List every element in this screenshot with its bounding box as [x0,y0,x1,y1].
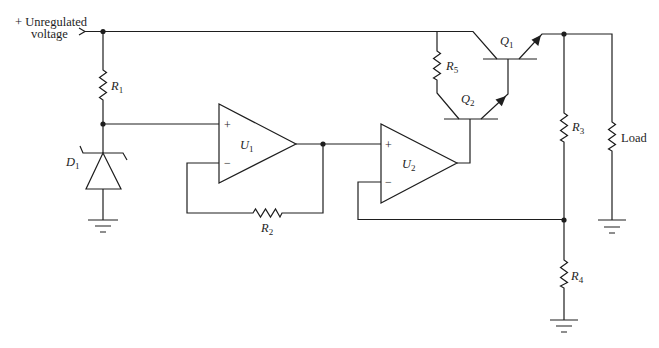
u2-minus-pin: − [385,175,392,189]
r2-label: R2 [260,221,273,237]
u1-triangle-icon [219,104,296,183]
r5-zigzag [434,32,460,120]
input-label-line2: voltage [31,27,68,41]
ground-icon [598,220,626,233]
r3-zigzag [561,34,568,220]
u1-plus-pin: + [224,118,231,132]
q2-label: Q2 [461,92,475,108]
r4-label: R4 [570,269,584,285]
d1-label: D1 [65,155,80,171]
q1-label: Q1 [500,34,514,50]
resistor-r1: R1 [100,32,124,125]
zener-diode-d1: D1 [65,124,127,232]
regulator-schematic: + Unregulated voltage R1 D1 + − U1 R2 [0,0,659,348]
r1-label: R1 [110,79,123,95]
resistor-r5: R5 [434,32,460,120]
transistor-q1: Q1 [483,34,616,220]
load-label: Load [621,131,647,145]
load-resistor: Load [598,131,647,233]
r4-zigzag [561,220,568,320]
u2-output-wire [457,119,470,163]
resistor-r4: R4 [550,220,584,332]
supply-rail-wire [85,32,497,60]
q1-emitter-output-wire [519,34,616,220]
r3-label: R3 [571,120,585,136]
input-chevron-icon [79,28,85,35]
opamp-u1: + − U1 [219,104,296,183]
ground-icon [88,220,118,232]
opamp-u2: + − U2 [381,124,457,203]
u2-triangle-icon [381,124,457,203]
q2-emitter-lead [481,59,508,119]
u1-minus-pin: − [224,156,231,170]
ground-icon [550,320,578,332]
r1-zigzag [100,32,107,125]
d1-triangle-icon [86,153,121,189]
resistor-r3: R3 [561,34,585,220]
input-terminal: + Unregulated voltage [15,15,88,41]
u2-plus-pin: + [385,138,392,152]
r5-label: R5 [445,59,459,75]
